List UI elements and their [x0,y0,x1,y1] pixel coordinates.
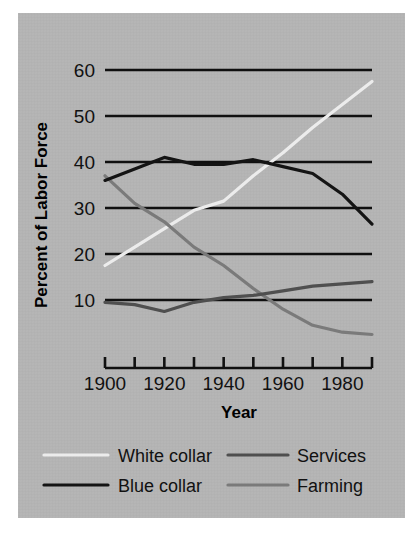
x-axis [105,357,372,368]
x-tick-label: 1920 [143,373,185,394]
y-tick-label: 20 [74,244,95,265]
series-line-white-collar [105,82,372,266]
y-gridlines [105,70,372,300]
x-tick-label: 1900 [84,373,126,394]
x-axis-title: Year [221,403,257,422]
x-tick-label: 1960 [262,373,304,394]
x-tick-label: 1940 [203,373,245,394]
y-axis-title: Percent of Labor Force [32,122,51,308]
y-tick-label: 40 [74,152,95,173]
series-line-blue-collar [105,157,372,224]
x-tick-label: 1980 [321,373,363,394]
legend-label-white-collar: White collar [118,446,212,466]
legend-label-services: Services [297,446,366,466]
legend-label-blue-collar: Blue collar [118,476,202,496]
legend: White collarServicesBlue collarFarming [44,446,366,496]
y-tick-label: 60 [74,60,95,81]
figure-root: 102030405060 19001920194019601980 Percen… [0,0,419,548]
y-axis-tick-labels: 102030405060 [74,60,95,311]
y-tick-label: 50 [74,106,95,127]
line-chart: 102030405060 19001920194019601980 Percen… [0,0,419,548]
series-line-services [105,282,372,312]
legend-label-farming: Farming [297,476,363,496]
y-tick-label: 30 [74,198,95,219]
y-tick-label: 10 [74,290,95,311]
x-axis-tick-labels: 19001920194019601980 [84,373,364,394]
